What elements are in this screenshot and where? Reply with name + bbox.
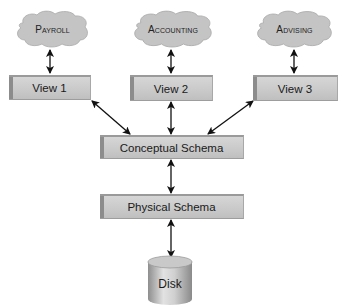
disk-label: Disk [147, 277, 193, 291]
arrow-view1-conceptual [92, 101, 130, 134]
view-3-box: View 3 [253, 75, 338, 101]
cloud-accounting: Accounting [132, 9, 214, 49]
conceptual-schema-box: Conceptual Schema [100, 135, 244, 159]
disk-cylinder: Disk [147, 255, 193, 306]
cloud-label-advising: Advising [276, 24, 312, 35]
cloud-payroll: Payroll [15, 9, 90, 49]
cloud-advising: Advising [255, 9, 334, 49]
arrow-view3-conceptual [208, 101, 253, 134]
view-2-box: View 2 [130, 75, 213, 101]
diagram-canvas: Payroll Accounting Advising View 1 View … [0, 0, 339, 308]
physical-schema-box: Physical Schema [100, 194, 244, 219]
cloud-label-accounting: Accounting [148, 24, 198, 35]
view-1-box: View 1 [9, 75, 91, 100]
cloud-label-payroll: Payroll [35, 24, 70, 35]
